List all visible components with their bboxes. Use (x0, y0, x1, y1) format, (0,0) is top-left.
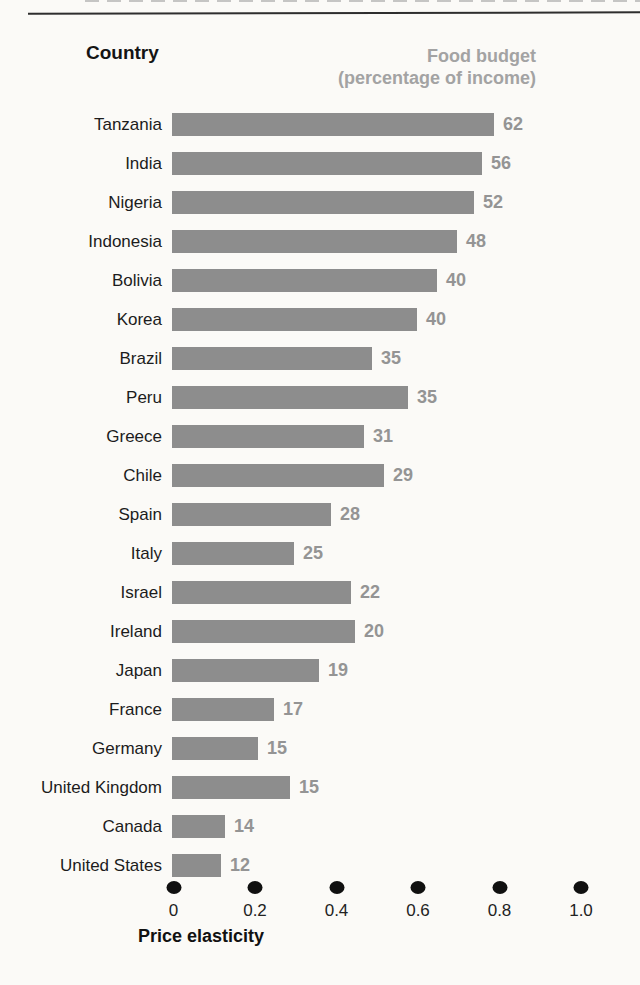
chart-row: Brazil35 (0, 339, 640, 378)
price-elasticity-bar (172, 503, 331, 526)
axis-tick-dot (411, 881, 426, 894)
price-elasticity-bar (172, 698, 274, 721)
price-elasticity-bar (172, 425, 364, 448)
country-label: United States (0, 856, 162, 876)
country-label: Nigeria (0, 193, 162, 213)
food-budget-value: 12 (230, 855, 250, 876)
chart-row: Spain28 (0, 495, 640, 534)
food-budget-value: 15 (267, 738, 287, 759)
axis-tick-label: 1.0 (569, 901, 593, 921)
chart-row: France17 (0, 690, 640, 729)
price-elasticity-bar (172, 152, 482, 175)
chart-row: Israel22 (0, 573, 640, 612)
price-elasticity-bar (172, 776, 290, 799)
chart-row: Ireland20 (0, 612, 640, 651)
food-budget-value: 35 (381, 348, 401, 369)
chart-row: Greece31 (0, 417, 640, 456)
axis-tick-label: 0 (169, 901, 178, 921)
food-budget-value: 31 (373, 426, 393, 447)
chart-row: India56 (0, 144, 640, 183)
axis-tick-dot (492, 881, 507, 894)
food-budget-value: 62 (503, 114, 523, 135)
food-budget-value: 28 (340, 504, 360, 525)
country-label: France (0, 700, 162, 720)
country-label: Spain (0, 505, 162, 525)
price-elasticity-bar (172, 269, 437, 292)
country-label: Italy (0, 544, 162, 564)
price-elasticity-bar (172, 191, 474, 214)
chart-row: Canada14 (0, 807, 640, 846)
axis-tick-dot (329, 881, 344, 894)
country-label: India (0, 154, 162, 174)
food-budget-value: 17 (283, 699, 303, 720)
chart-row: Peru35 (0, 378, 640, 417)
country-label: Indonesia (0, 232, 162, 252)
food-budget-value: 56 (491, 153, 511, 174)
axis-tick-label: 0.4 (325, 901, 349, 921)
food-budget-value: 40 (426, 309, 446, 330)
scan-artifact-line (85, 0, 640, 2)
chart-row: Chile29 (0, 456, 640, 495)
chart-row: Germany15 (0, 729, 640, 768)
x-axis: 00.20.40.60.81.0 (0, 875, 640, 925)
x-axis-title: Price elasticity (138, 926, 264, 947)
axis-tick-dot (166, 881, 181, 894)
price-elasticity-bar (172, 737, 258, 760)
country-label: Germany (0, 739, 162, 759)
country-label: Japan (0, 661, 162, 681)
food-budget-value: 19 (328, 660, 348, 681)
price-elasticity-bar (172, 347, 372, 370)
country-label: Greece (0, 427, 162, 447)
axis-tick-label: 0.6 (406, 901, 430, 921)
scanned-chart-page: Country Food budget (percentage of incom… (0, 0, 640, 985)
axis-tick-dot (248, 881, 263, 894)
food-budget-value: 15 (299, 777, 319, 798)
food-budget-value: 22 (360, 582, 380, 603)
chart-row: Indonesia48 (0, 222, 640, 261)
chart-row: United Kingdom15 (0, 768, 640, 807)
column-header-country: Country (86, 42, 159, 64)
country-label: Bolivia (0, 271, 162, 291)
food-budget-value: 52 (483, 192, 503, 213)
food-budget-value: 25 (303, 543, 323, 564)
price-elasticity-bar (172, 308, 417, 331)
food-budget-value: 48 (466, 231, 486, 252)
top-rule (28, 11, 640, 14)
food-budget-value: 14 (234, 816, 254, 837)
price-elasticity-bar (172, 113, 494, 136)
bar-chart: Tanzania62India56Nigeria52Indonesia48Bol… (0, 105, 640, 885)
food-budget-value: 20 (364, 621, 384, 642)
axis-tick-label: 0.2 (243, 901, 267, 921)
axis-tick-dot (574, 881, 589, 894)
axis-tick-label: 0.8 (488, 901, 512, 921)
price-elasticity-bar (172, 542, 294, 565)
country-label: Israel (0, 583, 162, 603)
country-label: United Kingdom (0, 778, 162, 798)
food-budget-header-line1: Food budget (338, 45, 536, 67)
food-budget-value: 40 (446, 270, 466, 291)
chart-row: Japan19 (0, 651, 640, 690)
country-label: Korea (0, 310, 162, 330)
price-elasticity-bar (172, 620, 355, 643)
country-label: Brazil (0, 349, 162, 369)
column-header-food-budget: Food budget (percentage of income) (338, 45, 536, 89)
price-elasticity-bar (172, 230, 457, 253)
food-budget-value: 35 (417, 387, 437, 408)
price-elasticity-bar (172, 464, 384, 487)
chart-row: Tanzania62 (0, 105, 640, 144)
price-elasticity-bar (172, 854, 221, 877)
food-budget-header-line2: (percentage of income) (338, 67, 536, 89)
chart-row: Bolivia40 (0, 261, 640, 300)
country-label: Ireland (0, 622, 162, 642)
country-label: Chile (0, 466, 162, 486)
price-elasticity-bar (172, 386, 408, 409)
country-label: Canada (0, 817, 162, 837)
country-label: Tanzania (0, 115, 162, 135)
price-elasticity-bar (172, 659, 319, 682)
price-elasticity-bar (172, 581, 351, 604)
country-label: Peru (0, 388, 162, 408)
price-elasticity-bar (172, 815, 225, 838)
chart-row: Nigeria52 (0, 183, 640, 222)
chart-row: Italy25 (0, 534, 640, 573)
chart-row: Korea40 (0, 300, 640, 339)
